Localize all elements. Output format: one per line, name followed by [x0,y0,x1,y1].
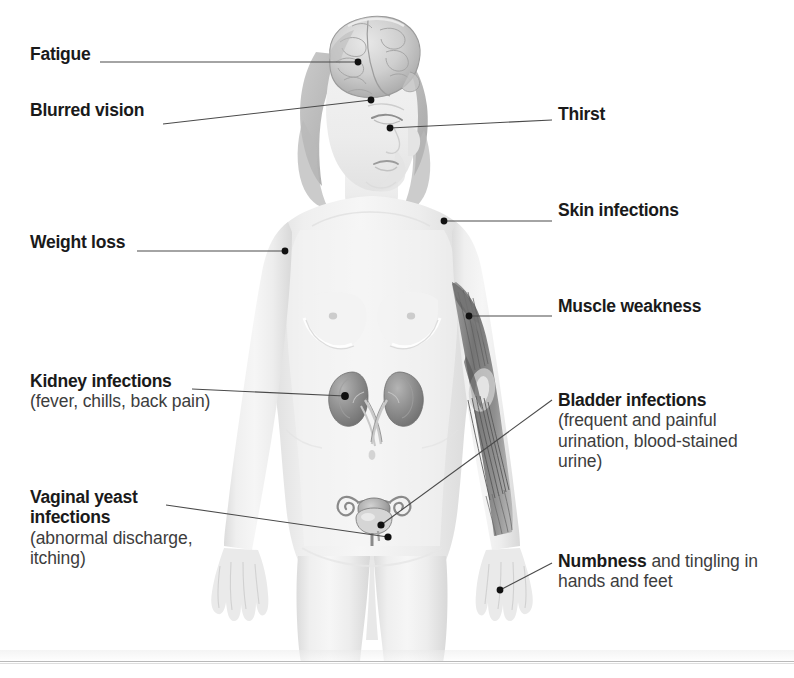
dot-bladder [377,521,384,528]
leader-line-blurred-vision [163,100,371,124]
leader-dots [282,59,504,594]
dot-skin [441,218,448,225]
dot-kidney [341,392,349,400]
callout-blurred-vision: Blurred vision [30,100,144,120]
callout-fatigue-heading: Fatigue [30,44,90,64]
callout-weight-loss-heading: Weight loss [30,232,125,252]
callout-skin-infections: Skin infections [558,200,679,220]
callout-vaginal-yeast-infections: Vaginal yeast infections (abnormal disch… [30,487,220,568]
dot-vaginal [384,533,391,540]
callout-thirst: Thirst [558,104,605,124]
callout-numbness-bold: Numbness [558,551,647,571]
dot-weight-loss [282,248,289,255]
leader-line-numbness [500,563,552,590]
callout-weight-loss: Weight loss [30,232,125,252]
callout-kidney-infections: Kidney infections (fever, chills, back p… [30,371,230,412]
callout-kidney-detail: (fever, chills, back pain) [30,391,230,411]
callout-bladder-infections: Bladder infections (frequent and painful… [558,390,786,471]
dot-blurred [368,97,375,104]
callout-fatigue: Fatigue [30,44,90,64]
dot-fatigue [355,59,362,66]
callout-vaginal-heading-line2: infections [30,507,220,527]
callout-bladder-detail: (frequent and painful urination, blood-s… [558,410,786,471]
diabetes-symptoms-diagram: Fatigue Blurred vision Weight loss Kidne… [0,0,794,678]
callout-muscle-weakness: Muscle weakness [558,296,701,316]
callout-skin-heading: Skin infections [558,200,679,220]
dot-numbness [497,587,504,594]
callout-muscle-heading: Muscle weakness [558,296,701,316]
bottom-divider [0,661,794,662]
callout-kidney-heading: Kidney infections [30,371,230,391]
dot-muscle [466,313,473,320]
callout-vaginal-heading-line1: Vaginal yeast [30,487,220,507]
leader-line-bladder [381,400,552,525]
callout-vaginal-detail: (abnormal discharge, itching) [30,528,220,569]
bottom-divider-shadow [0,663,794,664]
callout-bladder-heading: Bladder infections [558,390,786,410]
dot-thirst [387,125,394,132]
leader-line-thirst [390,120,552,128]
callout-thirst-heading: Thirst [558,104,605,124]
callout-blurred-vision-heading: Blurred vision [30,100,144,120]
callout-numbness: Numbness and tingling in hands and feet [558,551,788,592]
